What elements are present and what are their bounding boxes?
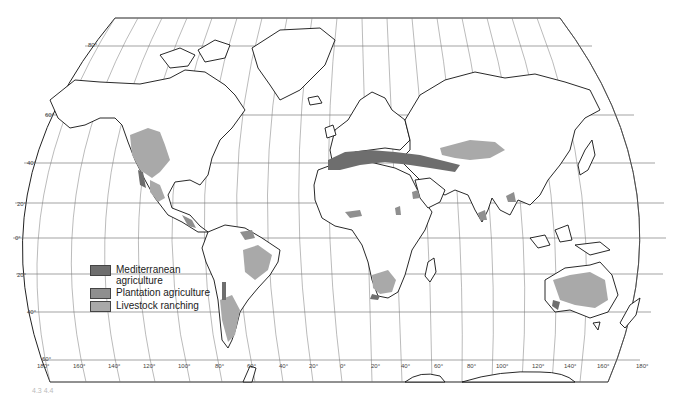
svg-text:160°: 160°: [597, 363, 610, 369]
svg-text:20°: 20°: [309, 363, 319, 369]
world-map: 80° 60° 40° 20° 0° 20° 40° 60° 180° 160°…: [0, 0, 682, 397]
svg-text:40°: 40°: [27, 160, 37, 166]
svg-text:40°: 40°: [27, 309, 37, 315]
svg-text:60°: 60°: [247, 363, 257, 369]
svg-text:60°: 60°: [42, 356, 52, 362]
livestock-swatch: [90, 301, 111, 312]
legend-label: Livestock ranching: [116, 300, 199, 311]
svg-text:100°: 100°: [496, 363, 509, 369]
svg-text:120°: 120°: [532, 363, 545, 369]
svg-text:160°: 160°: [73, 363, 86, 369]
svg-text:80°: 80°: [215, 363, 225, 369]
legend-label: Plantation agriculture: [116, 287, 210, 298]
svg-text:80°: 80°: [467, 363, 477, 369]
legend-item-plantation: Plantation agriculture: [90, 287, 210, 299]
map-legend: Mediterranean agriculture Plantation agr…: [90, 264, 210, 313]
svg-text:20°: 20°: [371, 363, 381, 369]
svg-text:60°: 60°: [45, 112, 55, 118]
svg-text:60°: 60°: [434, 363, 444, 369]
figure-caption: 4.3 4.4: [32, 387, 53, 394]
legend-label: Mediterranean agriculture: [116, 264, 180, 286]
svg-text:180°: 180°: [636, 363, 649, 369]
svg-text:80°: 80°: [88, 42, 98, 48]
plantation-swatch: [90, 288, 111, 299]
svg-text:0°: 0°: [15, 235, 21, 241]
svg-text:180°: 180°: [37, 363, 50, 369]
mediterranean-swatch: [90, 265, 111, 276]
svg-text:0°: 0°: [340, 363, 346, 369]
legend-item-mediterranean: Mediterranean agriculture: [90, 264, 210, 286]
legend-item-livestock: Livestock ranching: [90, 300, 210, 312]
svg-text:20°: 20°: [17, 201, 27, 207]
svg-text:120°: 120°: [143, 363, 156, 369]
svg-text:40°: 40°: [279, 363, 289, 369]
svg-text:140°: 140°: [108, 363, 121, 369]
svg-text:40°: 40°: [401, 363, 411, 369]
svg-text:100°: 100°: [178, 363, 191, 369]
svg-text:140°: 140°: [564, 363, 577, 369]
svg-text:20°: 20°: [17, 272, 27, 278]
